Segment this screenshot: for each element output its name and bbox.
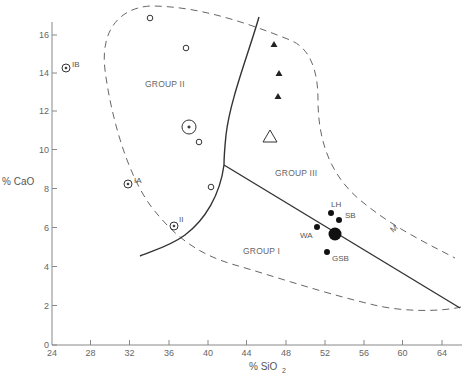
y-tick-labels: 0 2 4 6 8 10 12 14 16 xyxy=(39,30,49,350)
x-tick-label: 64 xyxy=(437,348,447,358)
region-label-group-ii: GROUP II xyxy=(145,79,185,89)
x-tick-label: 48 xyxy=(281,348,291,358)
x-ticks xyxy=(91,340,443,345)
open-circle-markers xyxy=(147,15,214,190)
y-ticks xyxy=(52,35,57,345)
point-label-ia: IA xyxy=(134,176,142,185)
y-tick-label: 10 xyxy=(39,145,49,155)
y-tick-label: 8 xyxy=(44,184,49,194)
y-axis-title: % CaO xyxy=(2,176,34,187)
boundary-group1-group3-line xyxy=(224,165,460,308)
marker-ii xyxy=(170,222,178,230)
point-label-ii: II xyxy=(179,215,183,224)
point-label-wa: WA xyxy=(300,231,313,240)
point-label-ib: IB xyxy=(72,60,80,69)
marker-ia xyxy=(124,180,132,188)
boundary-group2-curve xyxy=(140,17,259,256)
svg-text:2: 2 xyxy=(282,367,286,374)
axes xyxy=(52,22,462,345)
x-tick-label: 52 xyxy=(320,348,330,358)
point-label-sb: SB xyxy=(345,211,356,220)
filled-circle-markers xyxy=(314,210,342,255)
marker-large-dotted xyxy=(182,120,196,134)
x-tick-label: 24 xyxy=(47,348,57,358)
region-label-m: M xyxy=(388,222,400,234)
x-tick-label: 44 xyxy=(241,348,251,358)
y-tick-label: 2 xyxy=(44,301,49,311)
point-label-lh: LH xyxy=(331,200,341,209)
x-tick-label: 56 xyxy=(359,348,369,358)
x-tick-labels: 24 28 32 36 40 44 48 52 56 60 64 xyxy=(47,348,447,358)
open-triangle-marker xyxy=(263,130,277,142)
y-tick-label: 12 xyxy=(39,106,49,116)
x-tick-label: 32 xyxy=(124,348,134,358)
scatter-chart: 0 2 4 6 8 10 12 14 16 24 28 32 36 40 44 … xyxy=(0,0,466,374)
y-tick-label: 14 xyxy=(39,68,49,78)
marker-ib xyxy=(62,64,70,72)
filled-triangle-markers xyxy=(271,41,283,99)
y-tick-label: 16 xyxy=(39,30,49,40)
x-axis-title: % SiO 2 xyxy=(249,361,286,374)
x-tick-label: 36 xyxy=(164,348,174,358)
x-tick-label: 28 xyxy=(85,348,95,358)
svg-text:% SiO: % SiO xyxy=(249,361,278,372)
point-label-gsb: GSB xyxy=(332,254,349,263)
region-label-group-i: GROUP I xyxy=(243,246,280,256)
x-tick-label: 60 xyxy=(397,348,407,358)
outer-dashed-envelope xyxy=(104,6,461,310)
x-tick-label: 40 xyxy=(203,348,213,358)
region-label-group-iii: GROUP III xyxy=(275,168,317,178)
y-tick-label: 4 xyxy=(44,262,49,272)
y-tick-label: 6 xyxy=(44,223,49,233)
